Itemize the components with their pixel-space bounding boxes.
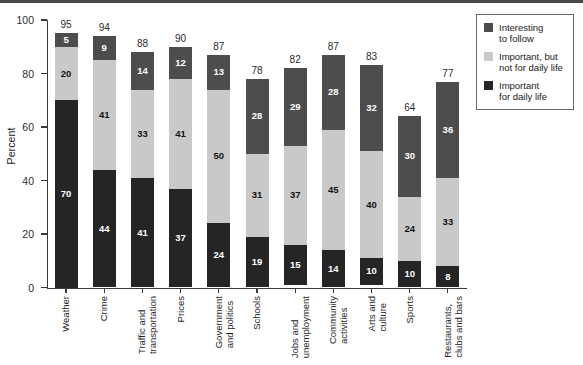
bar-stack[interactable]: 124137 bbox=[169, 47, 192, 288]
x-axis-tick bbox=[295, 288, 296, 293]
bar-segment-value: 45 bbox=[322, 185, 345, 195]
x-axis-tick bbox=[142, 288, 143, 293]
bar-segment: 24 bbox=[207, 223, 230, 287]
bar-segment: 8 bbox=[436, 266, 459, 287]
bar-segment: 28 bbox=[322, 55, 345, 130]
bar-segment-value: 37 bbox=[169, 233, 192, 243]
bar-stack[interactable]: 293715 bbox=[284, 68, 307, 285]
x-axis-label: Crime bbox=[99, 296, 110, 321]
legend-swatch-icon bbox=[484, 23, 493, 32]
bar-segment-value: 50 bbox=[207, 152, 230, 162]
legend-swatch-icon bbox=[484, 81, 493, 90]
bar-segment-value: 10 bbox=[398, 269, 421, 279]
x-axis-tick bbox=[65, 288, 66, 293]
bar-segment: 10 bbox=[398, 261, 421, 288]
bar-segment: 45 bbox=[322, 130, 345, 250]
bar-segment-value: 9 bbox=[93, 43, 116, 53]
bar-segment-value: 31 bbox=[246, 190, 269, 200]
bar-segment-value: 40 bbox=[360, 200, 383, 210]
bar-segment: 70 bbox=[55, 100, 78, 287]
chart-legend: Interesting to followImportant, but not … bbox=[476, 14, 574, 110]
bar-segment: 41 bbox=[93, 60, 116, 170]
bar-segment-value: 15 bbox=[284, 260, 307, 270]
x-axis-tick bbox=[218, 288, 219, 293]
bar-segment-value: 24 bbox=[207, 251, 230, 261]
x-axis-label: Traffic and transportation bbox=[137, 296, 158, 354]
x-axis-label: Schools bbox=[252, 296, 263, 330]
bar-stack[interactable]: 36338 bbox=[436, 82, 459, 288]
bar-segment: 40 bbox=[360, 151, 383, 258]
bar-segment-value: 29 bbox=[284, 102, 307, 112]
legend-swatch-icon bbox=[484, 52, 493, 61]
legend-item[interactable]: Important for daily life bbox=[484, 80, 567, 102]
bar-segment-value: 41 bbox=[93, 110, 116, 120]
bar-total-label: 94 bbox=[83, 23, 126, 33]
bar-total-label: 87 bbox=[197, 42, 240, 52]
bar-segment: 9 bbox=[93, 36, 116, 60]
x-axis-label: Government and politics bbox=[214, 296, 235, 348]
bar-stack[interactable]: 135024 bbox=[207, 55, 230, 288]
stacked-bar-chart: Percent 020406080100 5207095Weather94144… bbox=[0, 0, 583, 365]
bar-segment-value: 20 bbox=[55, 69, 78, 79]
bar-segment: 10 bbox=[360, 258, 383, 285]
bar-segment: 20 bbox=[55, 47, 78, 101]
bar-segment: 13 bbox=[207, 55, 230, 90]
bar-total-label: 64 bbox=[388, 103, 431, 113]
bar-segment: 14 bbox=[131, 52, 154, 89]
x-axis-tick bbox=[180, 288, 181, 293]
bar-stack[interactable]: 94144 bbox=[93, 36, 116, 287]
bar-stack[interactable]: 283119 bbox=[246, 79, 269, 288]
x-axis-label: Restaurants, clubs and bars bbox=[443, 296, 464, 358]
bar-segment-value: 8 bbox=[436, 272, 459, 282]
bar-segment-value: 12 bbox=[169, 58, 192, 68]
legend-item[interactable]: Important, but not for daily life bbox=[484, 51, 567, 73]
bar-segment: 24 bbox=[398, 197, 421, 261]
bar-segment-value: 37 bbox=[284, 190, 307, 200]
bar-segment: 44 bbox=[93, 170, 116, 288]
x-axis-tick bbox=[104, 288, 105, 293]
bar-segment-value: 5 bbox=[55, 35, 78, 45]
bar-total-label: 78 bbox=[236, 66, 279, 76]
bar-segment-value: 24 bbox=[398, 224, 421, 234]
bar-stack[interactable]: 324010 bbox=[360, 65, 383, 284]
bar-segment-value: 13 bbox=[207, 67, 230, 77]
bar-stack[interactable]: 52070 bbox=[55, 33, 78, 287]
x-axis-tick bbox=[447, 288, 448, 293]
bar-stack[interactable]: 143341 bbox=[131, 52, 154, 287]
bar-segment-value: 36 bbox=[436, 125, 459, 135]
bar-segment: 29 bbox=[284, 68, 307, 146]
bar-segment: 50 bbox=[207, 90, 230, 224]
x-axis-label: Community activities bbox=[328, 296, 349, 344]
legend-item-label: Important, but not for daily life bbox=[499, 51, 563, 73]
bar-total-label: 87 bbox=[312, 42, 355, 52]
bar-segment-value: 28 bbox=[322, 87, 345, 97]
x-axis-tick bbox=[371, 288, 372, 293]
bar-segment-value: 70 bbox=[55, 189, 78, 199]
bar-total-label: 82 bbox=[274, 55, 317, 65]
bar-total-label: 88 bbox=[121, 39, 164, 49]
x-axis-tick bbox=[409, 288, 410, 293]
legend-item[interactable]: Interesting to follow bbox=[484, 22, 567, 44]
bar-stack[interactable]: 284514 bbox=[322, 55, 345, 288]
bar-segment: 32 bbox=[360, 65, 383, 151]
bar-segment: 41 bbox=[169, 79, 192, 189]
bar-segment-value: 33 bbox=[131, 129, 154, 139]
x-axis-tick bbox=[333, 288, 334, 293]
bar-total-label: 90 bbox=[159, 34, 202, 44]
bar-segment-value: 28 bbox=[246, 112, 269, 122]
bar-segment-value: 32 bbox=[360, 104, 383, 114]
bar-segment: 31 bbox=[246, 154, 269, 237]
bar-segment-value: 44 bbox=[93, 224, 116, 234]
bar-total-label: 77 bbox=[426, 69, 469, 79]
bar-segment: 28 bbox=[246, 79, 269, 154]
bar-segment-value: 30 bbox=[398, 152, 421, 162]
bar-segment: 19 bbox=[246, 237, 269, 288]
bar-segment-value: 19 bbox=[246, 257, 269, 267]
bar-segment: 5 bbox=[55, 33, 78, 46]
bar-segment-value: 10 bbox=[360, 267, 383, 277]
bar-segment-value: 14 bbox=[131, 66, 154, 76]
x-axis-tick bbox=[256, 288, 257, 293]
x-axis-label: Arts and culture bbox=[367, 296, 388, 331]
bar-stack[interactable]: 302410 bbox=[398, 116, 421, 287]
bar-segment: 41 bbox=[131, 178, 154, 288]
